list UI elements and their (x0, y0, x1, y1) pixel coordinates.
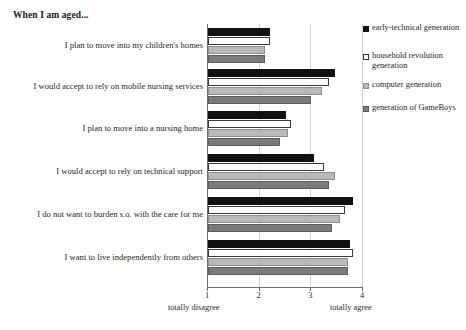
legend-label: household revolution generation (372, 51, 466, 70)
bar (208, 96, 311, 104)
bar (208, 78, 329, 86)
tick-label: 2 (247, 291, 271, 300)
legend-label: early-technical generation (372, 23, 466, 33)
category-axis-labels: I plan to move into my children's homesI… (0, 24, 203, 287)
axis-low-label: totally disagree (168, 303, 219, 312)
bar (208, 240, 350, 248)
tick-label: 1 (195, 291, 219, 300)
bar (208, 181, 329, 189)
legend-label: generation of GameBoys (372, 103, 466, 113)
bar-chart: When I am aged... I plan to move into my… (0, 0, 466, 330)
category-label: I want to live independently from others (7, 252, 203, 262)
bar (208, 69, 335, 77)
bar (208, 258, 348, 266)
bar (208, 55, 265, 63)
bar (208, 138, 280, 146)
bar (208, 215, 340, 223)
bar (208, 111, 286, 119)
bar (208, 163, 324, 171)
bar (208, 267, 348, 275)
bar (208, 206, 345, 214)
tick-label: 4 (350, 291, 374, 300)
legend-swatch-icon (363, 54, 369, 60)
plot-area (207, 24, 362, 287)
bar (208, 87, 322, 95)
gridline (362, 24, 363, 287)
category-label: I plan to move into a nursing home (7, 123, 203, 133)
bar (208, 224, 332, 232)
bar (208, 197, 353, 205)
axis-high-label: totally agree (330, 303, 372, 312)
bar (208, 129, 288, 137)
tick-label: 3 (298, 291, 322, 300)
category-label: I would accept to rely on mobile nursing… (7, 81, 203, 91)
legend-label: computer generation (372, 80, 466, 90)
bar (208, 154, 314, 162)
bar (208, 120, 291, 128)
bar (208, 172, 335, 180)
x-axis-line (207, 287, 363, 288)
bar (208, 37, 270, 45)
category-label: I would accept to rely on technical supp… (7, 166, 203, 176)
category-label: I plan to move into my children's homes (7, 40, 203, 50)
category-label: I do not want to burden s.o. with the ca… (7, 209, 203, 219)
bar (208, 28, 270, 36)
legend-swatch-icon (363, 26, 369, 32)
legend-swatch-icon (363, 83, 369, 89)
bar (208, 46, 265, 54)
chart-title: When I am aged... (13, 10, 89, 20)
legend-swatch-icon (363, 106, 369, 112)
bar (208, 249, 353, 257)
